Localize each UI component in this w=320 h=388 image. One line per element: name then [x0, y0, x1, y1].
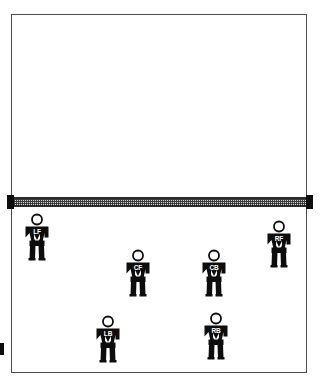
- net-post-left-icon: [7, 195, 14, 209]
- player-right-forward[interactable]: RF: [262, 220, 296, 268]
- player-figure-icon: [121, 249, 155, 297]
- player-figure-icon: [20, 213, 54, 261]
- player-right-back[interactable]: RB: [199, 312, 233, 360]
- player-center-forward[interactable]: CF: [121, 249, 155, 297]
- sideline-marker-icon: [0, 343, 4, 355]
- player-figure-icon: [262, 220, 296, 268]
- volleyball-court-diagram: LFRFCFCBLBRB: [0, 0, 320, 388]
- net-post-right-icon: [306, 195, 313, 209]
- player-figure-icon: [197, 249, 231, 297]
- player-left-back[interactable]: LB: [91, 315, 125, 363]
- player-figure-icon: [91, 315, 125, 363]
- net: [0, 195, 320, 209]
- net-tape-bottom: [12, 205, 308, 207]
- court-boundary: [11, 14, 307, 373]
- player-figure-icon: [199, 312, 233, 360]
- player-left-forward[interactable]: LF: [20, 213, 54, 261]
- player-center-back[interactable]: CB: [197, 249, 231, 297]
